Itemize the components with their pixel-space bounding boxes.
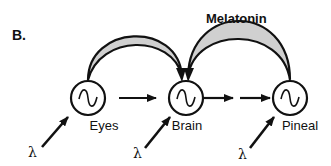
brain-oscillator-icon [169, 81, 203, 115]
melatonin-arc [184, 21, 290, 82]
lambda-eyes: λ [28, 144, 37, 160]
light-input-eyes-arrow-icon [42, 117, 68, 147]
pineal-label: Pineal [270, 118, 330, 133]
eyes-label: Eyes [74, 118, 134, 133]
lambda-brain: λ [133, 145, 142, 161]
melatonin-label: Melatonin [206, 11, 267, 26]
diagram-canvas [0, 0, 331, 166]
lambda-pineal: λ [238, 146, 247, 162]
pineal-oscillator-icon [273, 81, 307, 115]
circadian-diagram: B. Melatonin Eyes Brain Pineal λ λ λ [0, 0, 331, 166]
eyes-oscillator-icon [71, 81, 105, 115]
panel-label: B. [12, 27, 26, 43]
brain-label: Brain [157, 118, 217, 133]
eyes-brain-arc [88, 36, 186, 82]
